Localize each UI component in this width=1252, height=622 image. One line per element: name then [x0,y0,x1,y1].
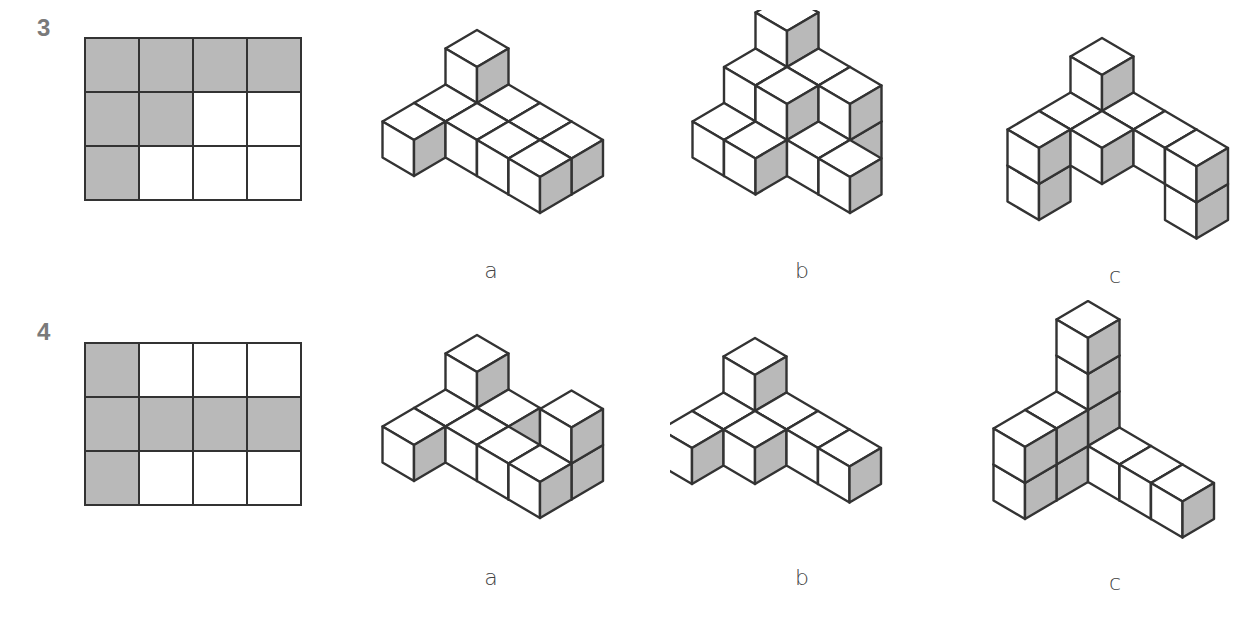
empty-cell [193,343,247,397]
empty-cell [247,343,301,397]
shaded-cell [247,38,301,92]
shaded-cell [85,92,139,146]
shaded-cell [85,343,139,397]
shaded-cell [247,397,301,451]
shaded-cell [85,451,139,505]
empty-cell [193,92,247,146]
plan-view-grid [84,342,302,506]
option-label-b: b [782,565,822,590]
option-label-b: b [782,258,822,283]
cube-figure-option-b [670,315,940,555]
empty-cell [139,343,193,397]
empty-cell [247,451,301,505]
option-label-a: a [471,258,511,283]
cube-figure-option-c [980,10,1250,260]
shaded-cell [139,38,193,92]
cube-figure-option-c [980,300,1250,560]
empty-cell [139,451,193,505]
shaded-cell [85,397,139,451]
shaded-cell [193,38,247,92]
cube-figure-option-b [670,10,940,250]
empty-cell [247,92,301,146]
cube-figure-option-a [360,315,630,555]
option-label-c: c [1095,263,1135,288]
empty-cell [193,451,247,505]
shaded-cell [139,397,193,451]
problem-number: 4 [37,318,50,346]
cube-figure-option-a [360,10,630,250]
option-label-a: a [471,565,511,590]
problem-number: 3 [37,14,50,42]
option-label-c: c [1095,570,1135,595]
empty-cell [139,146,193,200]
empty-cell [193,146,247,200]
shaded-cell [193,397,247,451]
shaded-cell [139,92,193,146]
shaded-cell [85,38,139,92]
plan-view-grid [84,37,302,201]
shaded-cell [85,146,139,200]
empty-cell [247,146,301,200]
